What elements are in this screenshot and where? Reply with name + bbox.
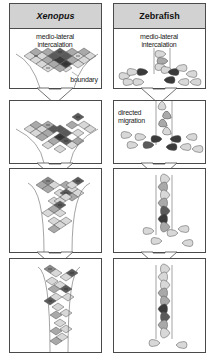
xenopus-column: Xenopus medio-lateral intercalation boun…: [9, 0, 102, 355]
zebrafish-column: Zebrafish medio-lateral intercalation: [113, 0, 206, 355]
zebrafish-stage3-illustration: [114, 169, 205, 252]
xenopus-panel-3: [9, 168, 102, 253]
xenopus-panel-4: [9, 258, 102, 353]
zebrafish-stage2-illustration: [114, 101, 205, 163]
zebrafish-panel-3: [113, 168, 206, 253]
xenopus-stage4-illustration: [10, 259, 101, 352]
zebrafish-panel-1: Zebrafish medio-lateral intercalation: [113, 3, 206, 89]
xenopus-stage3-illustration: [10, 169, 101, 252]
zebrafish-panel-4: [113, 258, 206, 353]
zebrafish-stage1-illustration: [114, 4, 205, 88]
xenopus-stage2-illustration: [10, 101, 101, 163]
xenopus-stage1-illustration: [10, 4, 101, 88]
xenopus-panel-2: [9, 100, 102, 164]
zebrafish-panel-2: directed migration: [113, 100, 206, 164]
xenopus-panel-1: Xenopus medio-lateral intercalation boun…: [9, 3, 102, 89]
zebrafish-stage4-illustration: [114, 259, 205, 352]
